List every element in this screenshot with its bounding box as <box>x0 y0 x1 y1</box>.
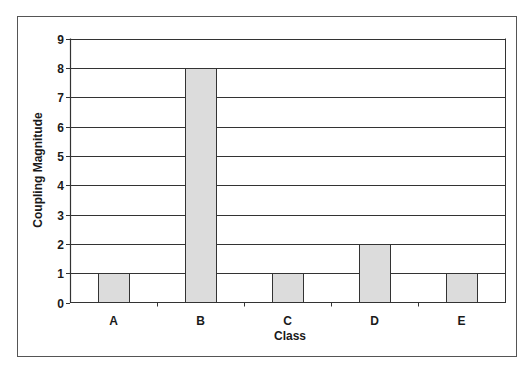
y-tick-label: 9 <box>57 33 64 47</box>
x-tick-label: E <box>457 314 465 328</box>
bar-e <box>447 274 478 303</box>
bar-a <box>99 274 130 303</box>
y-axis-title: Coupling Magnitude <box>31 112 45 228</box>
chart-frame <box>18 17 517 357</box>
x-tick-label: C <box>283 314 292 328</box>
bar-d <box>360 245 391 303</box>
x-axis-title: Class <box>274 329 306 343</box>
y-tick-label: 1 <box>57 267 64 281</box>
x-tick-label: D <box>370 314 379 328</box>
y-tick-label: 4 <box>57 179 64 193</box>
y-tick-label: 3 <box>57 209 64 223</box>
bar-chart: 0123456789 ABCDE Class Coupling Magnitud… <box>0 0 532 371</box>
bar-c <box>273 274 304 303</box>
y-tick-label: 7 <box>57 91 64 105</box>
x-tick-label: A <box>109 314 118 328</box>
y-tick-label: 5 <box>57 150 64 164</box>
bar-b <box>186 69 217 303</box>
y-tick-label: 0 <box>57 297 64 311</box>
y-tick-label: 2 <box>57 238 64 252</box>
x-tick-label: B <box>196 314 205 328</box>
y-tick-label: 8 <box>57 62 64 76</box>
y-tick-label: 6 <box>57 121 64 135</box>
